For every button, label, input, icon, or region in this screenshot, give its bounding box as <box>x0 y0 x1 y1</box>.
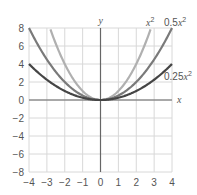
y-tick-label: −4 <box>13 131 25 142</box>
tick-labels: −4−3−2−101234−8−6−4−202468 <box>13 23 176 189</box>
x-tick-label: −4 <box>23 177 35 188</box>
y-tick-label: −2 <box>13 113 25 124</box>
x-tick-label: −1 <box>77 177 89 188</box>
y-tick-label: 8 <box>18 23 24 34</box>
x-axis-label: x <box>176 94 182 105</box>
x-tick-label: 1 <box>116 177 122 188</box>
x-tick-label: 0 <box>98 177 104 188</box>
y-axis-label: y <box>98 15 104 26</box>
curve-label: x2 <box>145 16 154 28</box>
y-tick-label: −8 <box>13 167 25 178</box>
x-tick-label: 2 <box>133 177 139 188</box>
y-tick-label: −6 <box>13 149 25 160</box>
x-tick-label: −2 <box>59 177 71 188</box>
y-tick-label: 2 <box>18 77 24 88</box>
x-tick-label: −3 <box>41 177 53 188</box>
curve-labels: x20.5x20.25x2 <box>145 16 192 82</box>
y-tick-label: 0 <box>18 95 24 106</box>
y-tick-label: 4 <box>18 59 24 70</box>
parabola-chart: xy −4−3−2−101234−8−6−4−202468 x20.5x20.2… <box>0 0 197 195</box>
x-tick-label: 4 <box>169 177 175 188</box>
axes: xy <box>29 15 182 172</box>
curve-label: 0.5x2 <box>164 16 186 28</box>
x-tick-label: 3 <box>151 177 157 188</box>
y-tick-label: 6 <box>18 41 24 52</box>
curve-label: 0.25x2 <box>164 70 192 82</box>
